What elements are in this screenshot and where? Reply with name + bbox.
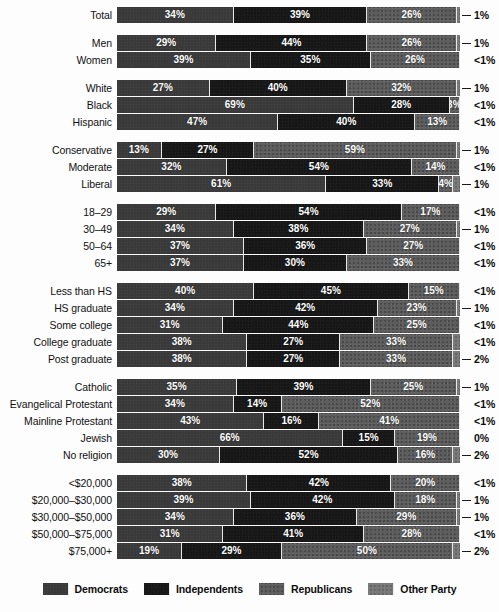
segment-democrats: 27%	[117, 80, 210, 96]
row-label: 18–29	[0, 204, 117, 220]
segment-republicans: 28%	[364, 526, 460, 542]
segment-democrats: 34%	[117, 221, 234, 237]
segment-value: 34%	[165, 300, 185, 316]
chart-row: Conservative13%27%59%1%	[0, 142, 499, 158]
group-race: White27%40%32%1%Black69%28%3%<1%Hispanic…	[0, 80, 499, 130]
stacked-bar: 34%14%52%	[117, 396, 460, 412]
segment-value: 33%	[393, 255, 413, 271]
segment-independents: 14%	[234, 396, 282, 412]
segment-value: 37%	[170, 255, 190, 271]
row-label: Evangelical Protestant	[0, 396, 117, 412]
segment-value: 41%	[379, 413, 399, 429]
chart-row: Liberal61%33%4%1%	[0, 176, 499, 192]
row-label: $30,000–$50,000	[0, 509, 117, 525]
segment-value: 30%	[285, 255, 305, 271]
segment-value: 4%	[439, 176, 453, 192]
segment-independents: 38%	[234, 221, 364, 237]
leader-line	[462, 500, 471, 501]
other-party-callout: 1%	[460, 80, 499, 96]
segment-value: 40%	[175, 283, 195, 299]
leader-line	[462, 308, 471, 309]
segment-value: 52%	[360, 396, 380, 412]
row-label: 65+	[0, 255, 117, 271]
other-party-value: 1%	[474, 221, 489, 237]
other-party-callout: 1%	[460, 300, 499, 316]
other-party-callout: 1%	[460, 221, 499, 237]
chart-row: Total34%39%26%1%	[0, 7, 499, 23]
row-label: Women	[0, 52, 117, 68]
other-party-callout: <1%	[460, 317, 499, 333]
leader-line	[462, 387, 471, 388]
other-party-value: 1%	[474, 7, 489, 23]
segment-value: 61%	[211, 176, 231, 192]
stacked-bar: 31%41%28%	[117, 526, 460, 542]
stacked-bar: 61%33%4%	[117, 176, 460, 192]
stacked-bar: 39%42%18%	[117, 492, 460, 508]
chart-legend: DemocratsIndependentsRepublicansOther Pa…	[0, 583, 499, 595]
other-party-callout: 1%	[460, 492, 499, 508]
segment-value: 44%	[288, 317, 308, 333]
segment-value: 33%	[372, 176, 392, 192]
segment-republicans: 25%	[371, 379, 457, 395]
segment-republicans: 41%	[319, 413, 460, 429]
segment-value: 36%	[285, 509, 305, 525]
segment-republicans: 26%	[367, 7, 456, 23]
segment-value: 52%	[299, 447, 319, 463]
legend-item: Independents	[144, 583, 243, 595]
legend-label: Republicans	[291, 583, 352, 595]
segment-value: 26%	[405, 52, 425, 68]
segment-other-party	[457, 509, 460, 525]
segment-value: 40%	[336, 114, 356, 130]
segment-democrats: 34%	[117, 396, 234, 412]
segment-value: 27%	[283, 351, 303, 367]
chart-row: Black69%28%3%<1%	[0, 97, 499, 113]
other-party-callout: <1%	[460, 159, 499, 175]
segment-value: 15%	[424, 283, 444, 299]
stacked-bar: 39%35%26%	[117, 52, 460, 68]
segment-democrats: 47%	[117, 114, 278, 130]
segment-democrats: 61%	[117, 176, 326, 192]
stacked-bar: 40%45%15%	[117, 283, 460, 299]
segment-value: 47%	[187, 114, 207, 130]
stacked-bar-chart: Total34%39%26%1%Men29%44%26%1%Women39%35…	[0, 0, 499, 612]
segment-value: 14%	[247, 396, 267, 412]
segment-democrats: 30%	[117, 447, 220, 463]
segment-republicans: 13%	[415, 114, 460, 130]
row-label: White	[0, 80, 117, 96]
segment-value: 26%	[401, 35, 421, 51]
row-label: Conservative	[0, 142, 117, 158]
stacked-bar: 34%39%26%	[117, 7, 460, 23]
row-label: HS graduate	[0, 300, 117, 316]
other-party-callout: <1%	[460, 204, 499, 220]
segment-value: 33%	[386, 351, 406, 367]
segment-value: 54%	[299, 204, 319, 220]
segment-value: 39%	[173, 492, 193, 508]
stacked-bar: 13%27%59%	[117, 142, 460, 158]
chart-row: Post graduate38%27%33%2%	[0, 351, 499, 367]
other-party-value: <1%	[474, 334, 495, 350]
segment-republicans: 25%	[374, 317, 460, 333]
segment-republicans: 4%	[439, 176, 453, 192]
row-label: Less than HS	[0, 283, 117, 299]
other-party-callout: <1%	[460, 334, 499, 350]
segment-republicans: 27%	[367, 238, 460, 254]
segment-other-party	[457, 7, 460, 23]
chart-row: Mainline Protestant43%16%41%<1%	[0, 413, 499, 429]
segment-value: 34%	[165, 7, 185, 23]
segment-value: 19%	[417, 430, 437, 446]
segment-value: 23%	[407, 300, 427, 316]
segment-republicans: 19%	[395, 430, 460, 446]
segment-republicans: 33%	[347, 255, 460, 271]
row-label: Total	[0, 7, 117, 23]
segment-democrats: 13%	[117, 142, 162, 158]
other-party-value: 1%	[474, 35, 489, 51]
other-party-callout: <1%	[460, 396, 499, 412]
segment-independents: 28%	[354, 97, 450, 113]
chart-row: Jewish66%15%19%0%	[0, 430, 499, 446]
segment-value: 29%	[156, 35, 176, 51]
segment-value: 25%	[407, 317, 427, 333]
segment-independents: 40%	[278, 114, 415, 130]
segment-value: 33%	[386, 334, 406, 350]
other-party-swatch	[368, 583, 394, 595]
other-party-callout: <1%	[460, 238, 499, 254]
